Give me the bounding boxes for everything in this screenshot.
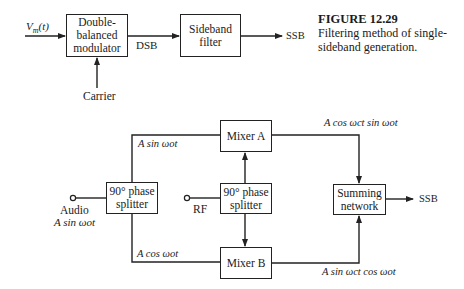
- mixer-b-output-label: A sin ωct cos ωot: [322, 266, 396, 277]
- rf-label: RF: [193, 203, 207, 215]
- mixer-a-output-label: A cos ωct sin ωot: [324, 117, 398, 128]
- center-splitter-label: 90° phase splitter: [221, 186, 271, 212]
- mixer-a-box: Mixer A: [220, 120, 272, 152]
- mixer-a-to-sum-arrow: [272, 135, 359, 183]
- figure-caption-text: Filtering method of single-sideband gene…: [318, 26, 464, 54]
- center-phase-splitter-box: 90° phase splitter: [220, 183, 272, 214]
- mixer-b-box: Mixer B: [220, 247, 272, 279]
- audio-signal-label: A sin ωot: [54, 216, 95, 228]
- figure-number: FIGURE 12.29: [318, 12, 464, 26]
- ssb-output-label-bottom: SSB: [419, 193, 438, 204]
- mixer-b-label: Mixer B: [227, 257, 266, 270]
- left-phase-splitter-box: 90° phase splitter: [106, 182, 158, 214]
- input-signal-label: Vm(t): [26, 20, 49, 35]
- modulator-label: Double-balanced modulator: [67, 16, 127, 55]
- filter-label: Sideband filter: [187, 23, 234, 49]
- rf-terminal: [184, 195, 189, 200]
- carrier-label: Carrier: [83, 90, 116, 102]
- dsb-label: DSB: [136, 39, 157, 51]
- sideband-filter-box: Sideband filter: [180, 14, 241, 57]
- double-balanced-modulator-box: Double-balanced modulator: [66, 14, 128, 57]
- audio-terminal: [70, 195, 75, 200]
- mixer-a-label: Mixer A: [227, 130, 266, 143]
- ssb-output-label-top: SSB: [286, 30, 305, 41]
- upper-branch-label: A sin ωot: [138, 138, 177, 149]
- audio-label: Audio: [60, 204, 89, 216]
- summing-network-box: Summing network: [333, 184, 386, 215]
- summing-label: Summing network: [334, 187, 385, 213]
- mixer-b-to-sum-arrow: [272, 216, 359, 263]
- lower-branch-label: A cos ωot: [137, 248, 178, 259]
- figure-caption: FIGURE 12.29 Filtering method of single-…: [318, 12, 464, 54]
- left-splitter-label: 90° phase splitter: [107, 185, 157, 211]
